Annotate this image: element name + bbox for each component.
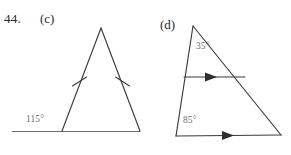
triangle-d-left-side <box>176 26 193 136</box>
triangle-c-right-leg <box>101 28 140 131</box>
geometry-canvas <box>0 0 291 155</box>
figure-root: 44. (c) (d) 115° 35° 85° <box>0 0 291 155</box>
parallel-arrow-lower <box>222 131 234 140</box>
parallel-arrow-upper <box>205 73 217 82</box>
triangle-c-left-leg <box>62 28 101 131</box>
figure-d-drawing <box>176 26 281 140</box>
figure-c-drawing <box>12 28 140 132</box>
